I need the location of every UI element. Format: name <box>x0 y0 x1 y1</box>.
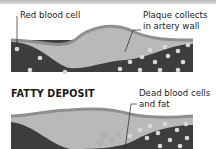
artery-diagram-bottom <box>0 0 216 149</box>
